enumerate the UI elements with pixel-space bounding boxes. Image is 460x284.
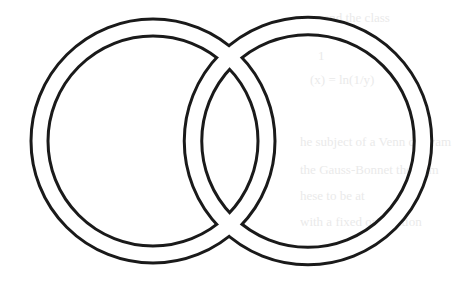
interlocking-rings-diagram <box>0 0 460 284</box>
ring-band-fills <box>40 26 424 256</box>
right-ring-band <box>193 26 423 256</box>
